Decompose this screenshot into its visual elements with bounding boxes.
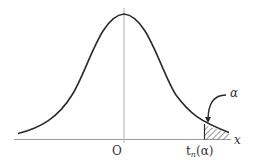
x-axis-label: x (234, 133, 241, 147)
alpha-label: α (230, 86, 238, 100)
critical-arg: (α) (196, 144, 213, 158)
t-distribution-diagram: α O x tn(α) (0, 0, 255, 164)
alpha-arrow (208, 95, 226, 120)
origin-label: O (112, 144, 122, 158)
critical-value-label: tn(α) (186, 144, 213, 159)
